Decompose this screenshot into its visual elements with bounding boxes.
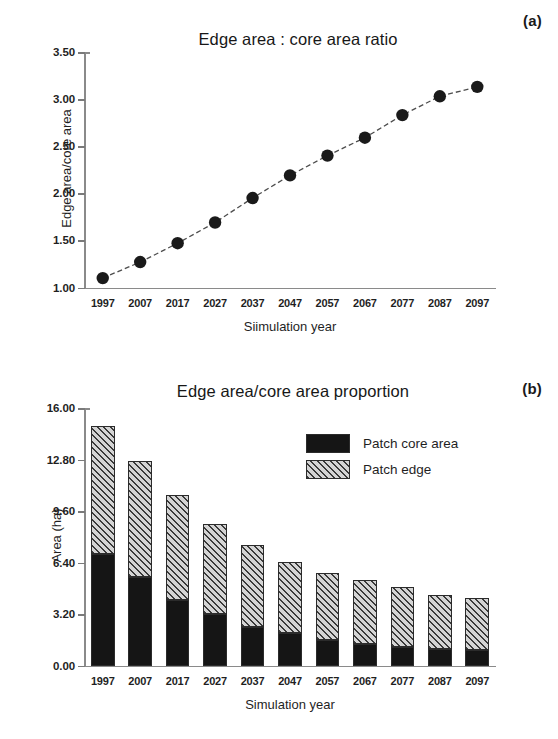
chart-b-plot-area: Area (ha) Patch core areaPatch edge Simu… <box>84 408 496 667</box>
y-axis-tick-label: 1.50 <box>53 234 75 246</box>
chart-a-plot-area: Edge area/core area Siimulation year 1.0… <box>84 52 496 289</box>
x-axis-tick-label: 2037 <box>241 297 265 309</box>
stacked-bar <box>278 562 302 666</box>
panel-a: (a) Edge area : core area ratio Edge are… <box>0 0 558 370</box>
legend-item: Patch edge <box>306 456 458 482</box>
x-axis-tick-label: 2017 <box>166 675 190 687</box>
bar-segment-patch-edge <box>166 495 190 600</box>
chart-b-x-axis-title: Simulation year <box>84 697 496 712</box>
y-axis-tick <box>78 52 85 54</box>
y-axis-tick <box>78 408 85 410</box>
bar-segment-patch-edge <box>241 545 265 627</box>
x-axis-tick-label: 2067 <box>353 675 377 687</box>
x-axis-tick-label: 2097 <box>465 675 489 687</box>
bar-segment-patch-core-area <box>391 647 415 666</box>
y-axis-tick <box>78 563 85 565</box>
stacked-bar <box>91 426 115 666</box>
y-axis-tick-label: 3.20 <box>53 608 75 620</box>
bar-segment-patch-edge <box>91 426 115 555</box>
chart-b-legend: Patch core areaPatch edge <box>306 430 458 482</box>
y-axis-tick-label: 6.40 <box>53 557 75 569</box>
stacked-bar <box>316 573 340 666</box>
panel-a-tag: (a) <box>523 12 542 29</box>
y-axis-tick <box>78 146 85 148</box>
y-axis-tick-label: 9.60 <box>53 505 75 517</box>
bar-segment-patch-core-area <box>278 633 302 665</box>
y-axis-tick-label: 3.00 <box>53 93 75 105</box>
y-axis-tick <box>78 460 85 462</box>
y-axis-tick <box>78 511 85 513</box>
stacked-bar <box>391 587 415 665</box>
bar-segment-patch-core-area <box>128 577 152 666</box>
x-axis-tick-label: 2047 <box>278 675 302 687</box>
x-axis-tick-label: 2017 <box>166 297 190 309</box>
bar-segment-patch-core-area <box>316 640 340 666</box>
bar-segment-patch-edge <box>278 562 302 634</box>
bar-segment-patch-core-area <box>241 627 265 666</box>
bar-segment-patch-edge <box>391 587 415 647</box>
x-axis-tick-label: 2097 <box>465 297 489 309</box>
legend-label: Patch edge <box>363 462 431 477</box>
bar-segment-patch-edge <box>353 580 377 644</box>
stacked-bar <box>465 598 489 666</box>
y-axis-tick <box>78 99 85 101</box>
x-axis-tick-label: 1997 <box>91 297 115 309</box>
chart-b-title: Edge area/core area proportion <box>0 382 558 401</box>
chart-a-x-axis-title: Siimulation year <box>84 319 496 334</box>
data-point-marker <box>359 132 371 144</box>
x-axis-tick-label: 2007 <box>128 297 152 309</box>
legend-label: Patch core area <box>363 436 458 451</box>
y-axis-tick <box>78 240 85 242</box>
data-point-marker <box>284 169 296 181</box>
y-axis-tick-label: 3.50 <box>53 46 75 58</box>
bar-segment-patch-core-area <box>203 614 227 666</box>
x-axis-tick-label: 2087 <box>428 297 452 309</box>
stacked-bar <box>353 580 377 665</box>
x-axis-tick-label: 2067 <box>353 297 377 309</box>
data-point-marker <box>209 216 221 228</box>
bar-segment-patch-edge <box>203 524 227 614</box>
y-axis-tick-label: 0.00 <box>53 660 75 672</box>
y-axis-tick <box>78 666 85 668</box>
chart-a-series-line <box>84 52 496 289</box>
legend-item: Patch core area <box>306 430 458 456</box>
y-axis-tick-label: 1.00 <box>53 282 75 294</box>
legend-swatch <box>306 460 350 479</box>
bar-segment-patch-edge <box>465 598 489 650</box>
x-axis-tick-label: 2007 <box>128 675 152 687</box>
data-point-marker <box>396 109 408 121</box>
x-axis-tick-label: 2087 <box>428 675 452 687</box>
stacked-bar <box>128 461 152 665</box>
y-axis-tick-label: 2.00 <box>53 187 75 199</box>
bar-segment-patch-edge <box>128 461 152 577</box>
x-axis-tick-label: 2037 <box>241 675 265 687</box>
stacked-bar <box>241 545 265 666</box>
x-axis-tick-label: 2077 <box>391 297 415 309</box>
x-axis-tick-label: 2027 <box>203 297 227 309</box>
data-point-marker <box>171 237 183 249</box>
x-axis-tick-label: 2057 <box>316 675 340 687</box>
data-point-marker <box>246 192 258 204</box>
panel-b: (b) Edge area/core area proportion Area … <box>0 370 558 739</box>
y-axis-tick <box>78 614 85 616</box>
bar-segment-patch-core-area <box>353 644 377 666</box>
y-axis-tick-label: 2.50 <box>53 140 75 152</box>
bar-segment-patch-edge <box>428 595 452 650</box>
y-axis-tick-label: 12.80 <box>47 454 75 466</box>
bar-segment-patch-edge <box>316 573 340 640</box>
x-axis-tick-label: 2047 <box>278 297 302 309</box>
x-axis-tick-label: 2027 <box>203 675 227 687</box>
x-axis-tick-label: 1997 <box>91 675 115 687</box>
y-axis-tick <box>78 193 85 195</box>
legend-swatch <box>306 434 350 453</box>
data-point-marker <box>97 272 109 284</box>
data-point-marker <box>134 256 146 268</box>
stacked-bar <box>203 524 227 666</box>
chart-b-y-axis-title: Area (ha) <box>49 455 64 615</box>
data-point-marker <box>471 81 483 93</box>
stacked-bar <box>166 495 190 666</box>
bar-segment-patch-core-area <box>428 649 452 665</box>
data-point-marker <box>434 90 446 102</box>
data-point-marker <box>321 149 333 161</box>
figure-two-panel: (a) Edge area : core area ratio Edge are… <box>0 0 558 739</box>
